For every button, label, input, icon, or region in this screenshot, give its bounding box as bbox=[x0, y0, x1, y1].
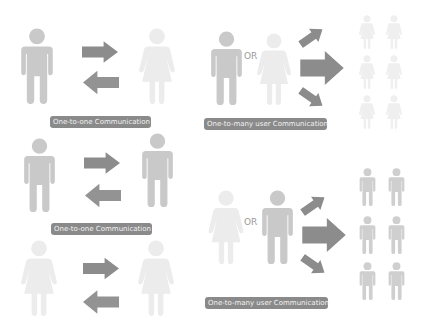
arrow-down-right-icon bbox=[295, 83, 327, 113]
female-person-icon bbox=[137, 28, 177, 104]
male-person-icon bbox=[359, 216, 376, 254]
male-person-icon bbox=[388, 216, 405, 254]
male-person-icon bbox=[210, 31, 243, 105]
female-person-icon bbox=[385, 15, 403, 49]
female-person-icon bbox=[358, 95, 376, 129]
arrow-up-right-icon bbox=[295, 22, 327, 52]
arrow-left-icon bbox=[85, 183, 121, 208]
arrow-left-icon bbox=[83, 289, 119, 315]
male-person-icon bbox=[359, 262, 376, 300]
arrow-left-icon bbox=[83, 70, 119, 95]
arrow-right-icon bbox=[82, 40, 118, 64]
arrow-right-icon bbox=[302, 218, 346, 252]
arrow-right-icon bbox=[300, 51, 344, 85]
male-person-icon bbox=[20, 28, 54, 104]
panel-label: One-to-many user Communication bbox=[204, 118, 327, 130]
male-person-icon bbox=[23, 138, 56, 212]
female-person-icon bbox=[385, 95, 403, 129]
male-person-icon bbox=[388, 262, 405, 300]
male-person-icon bbox=[141, 133, 174, 207]
female-person-icon bbox=[19, 240, 59, 316]
male-person-icon bbox=[261, 190, 294, 264]
male-person-icon bbox=[359, 168, 376, 206]
female-person-icon bbox=[255, 33, 293, 105]
arrow-down-right-icon bbox=[297, 250, 329, 280]
female-person-icon bbox=[358, 55, 376, 89]
arrow-up-right-icon bbox=[297, 190, 329, 220]
female-person-icon bbox=[136, 240, 176, 316]
panel-label: One-to-one Communication bbox=[50, 116, 151, 128]
male-person-icon bbox=[388, 168, 405, 206]
arrow-right-icon bbox=[83, 256, 119, 281]
panel-label: One-to-many user Communication bbox=[205, 297, 328, 309]
arrow-right-icon bbox=[84, 151, 120, 175]
or-text: OR bbox=[244, 217, 257, 227]
female-person-icon bbox=[206, 190, 246, 264]
female-person-icon bbox=[358, 15, 376, 49]
panel-label: One-to-one Communication bbox=[51, 223, 152, 235]
female-person-icon bbox=[385, 55, 403, 89]
